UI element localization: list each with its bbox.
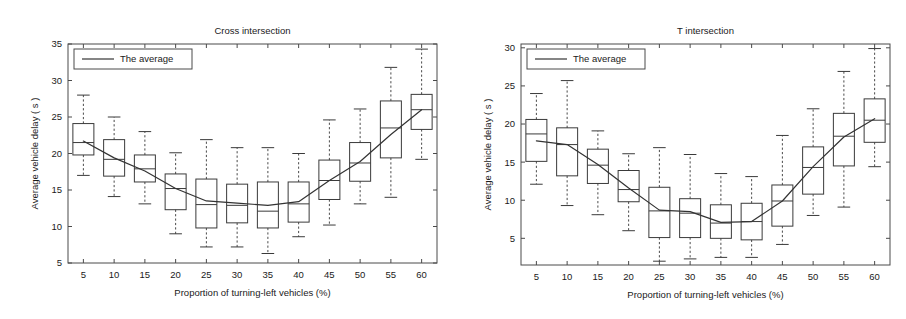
x-tick-label: 55 [839, 271, 850, 282]
plot-frame [521, 44, 890, 265]
boxplot-box [772, 135, 793, 244]
legend: The average [74, 49, 192, 69]
y-tick-label: 30 [504, 42, 515, 53]
x-tick-label: 50 [808, 271, 819, 282]
x-tick-label: 15 [140, 269, 151, 280]
x-tick-label: 60 [416, 269, 427, 280]
boxplot-box [227, 148, 248, 247]
boxplot-box [319, 120, 340, 225]
box-iqr [680, 199, 701, 238]
boxplot-box [587, 131, 608, 215]
x-tick-label: 5 [81, 269, 86, 280]
boxplot-box [557, 81, 578, 206]
boxplot-box [104, 117, 125, 197]
x-axis-label: Proportion of turning-left vehicles (%) [174, 287, 330, 298]
y-tick-label: 25 [504, 80, 515, 91]
box-iqr [411, 94, 432, 129]
x-tick-label: 55 [386, 269, 397, 280]
box-iqr [319, 160, 340, 199]
box-iqr [557, 128, 578, 176]
x-tick-label: 20 [623, 271, 634, 282]
y-tick-label: 20 [504, 118, 515, 129]
y-tick-label: 5 [510, 233, 515, 244]
y-tick-label: 20 [51, 148, 62, 159]
chart-panel-t-intersection: T intersection51015202530510152025303540… [453, 0, 906, 319]
chart-title: T intersection [677, 25, 734, 36]
plot-frame [68, 44, 437, 263]
boxplot-box [864, 49, 885, 167]
boxplot-box [196, 140, 217, 247]
x-tick-label: 40 [746, 271, 757, 282]
boxplot-box [803, 109, 824, 216]
y-tick-label: 25 [51, 111, 62, 122]
boxplot-box [411, 49, 432, 159]
x-tick-label: 30 [685, 271, 696, 282]
x-tick-label: 10 [109, 269, 120, 280]
boxplot-t-intersection: T intersection51015202530510152025303540… [453, 0, 906, 319]
boxplot-box [618, 154, 639, 231]
legend-label-the-average: The average [573, 53, 626, 64]
figure-container: Cross intersection5101520253035510152025… [0, 0, 906, 319]
chart-title: Cross intersection [214, 25, 290, 36]
boxplot-box [710, 174, 731, 258]
legend-label-the-average: The average [120, 53, 173, 64]
x-tick-label: 45 [777, 271, 788, 282]
x-tick-label: 25 [654, 271, 665, 282]
x-tick-label: 45 [324, 269, 335, 280]
x-tick-label: 35 [716, 271, 727, 282]
box-iqr [833, 113, 854, 166]
x-tick-label: 40 [293, 269, 304, 280]
x-tick-label: 20 [170, 269, 181, 280]
box-iqr [73, 124, 94, 155]
x-tick-label: 25 [201, 269, 212, 280]
x-tick-label: 15 [593, 271, 604, 282]
boxplot-cross-intersection: Cross intersection5101520253035510152025… [0, 0, 453, 319]
boxplot-box [73, 95, 94, 175]
y-axis-label: Average vehicle delay ( s ) [482, 99, 493, 211]
boxplot-box [380, 67, 401, 197]
chart-panel-cross-intersection: Cross intersection5101520253035510152025… [0, 0, 453, 319]
x-tick-label: 35 [263, 269, 274, 280]
x-tick-label: 5 [534, 271, 539, 282]
x-tick-label: 50 [355, 269, 366, 280]
boxplot-box [526, 94, 547, 185]
x-axis-label: Proportion of turning-left vehicles (%) [627, 289, 783, 300]
box-iqr [803, 147, 824, 194]
box-iqr [196, 179, 217, 228]
box-iqr [618, 171, 639, 202]
y-tick-label: 10 [504, 195, 515, 206]
boxplot-box [350, 109, 371, 204]
x-tick-label: 30 [232, 269, 243, 280]
boxplot-box [833, 71, 854, 207]
x-tick-label: 60 [869, 271, 880, 282]
y-tick-label: 10 [51, 221, 62, 232]
x-tick-label: 10 [562, 271, 573, 282]
y-tick-label: 15 [504, 157, 515, 168]
legend: The average [527, 49, 645, 69]
boxplot-box [165, 153, 186, 234]
box-iqr [380, 101, 401, 158]
boxplot-box [680, 155, 701, 259]
boxplot-box [257, 148, 278, 254]
y-tick-label: 15 [51, 184, 62, 195]
y-tick-label: 35 [51, 38, 62, 49]
boxplot-box [288, 154, 309, 237]
box-iqr [649, 187, 670, 237]
y-tick-label: 5 [57, 257, 62, 268]
y-tick-label: 30 [51, 75, 62, 86]
box-iqr [587, 149, 608, 183]
y-axis-label: Average vehicle delay ( s ) [29, 98, 40, 210]
